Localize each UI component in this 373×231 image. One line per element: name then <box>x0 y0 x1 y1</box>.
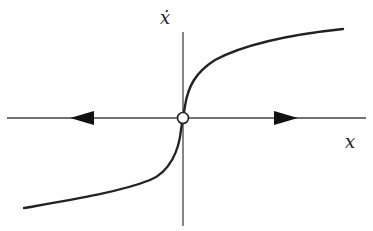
phase-portrait: ẋ x <box>0 0 373 231</box>
x-axis-label: x <box>345 131 355 152</box>
fixed-point-marker <box>178 113 189 124</box>
right-arrow-icon <box>274 111 298 125</box>
y-axis-label: ẋ <box>160 7 170 28</box>
left-arrow-icon <box>70 111 94 125</box>
